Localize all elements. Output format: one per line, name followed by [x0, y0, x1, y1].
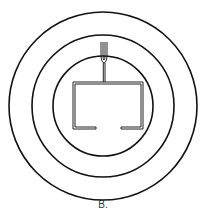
outer-ring — [9, 12, 197, 200]
fork-connector — [101, 42, 107, 82]
diagram-canvas — [0, 0, 206, 216]
figure-label: B. — [0, 199, 206, 210]
bracket-frame — [73, 82, 143, 129]
